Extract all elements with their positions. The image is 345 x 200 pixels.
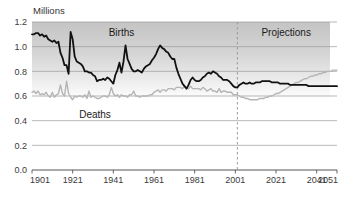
x-tick-label: 1901 bbox=[30, 175, 50, 185]
deaths-annotation-label: Deaths bbox=[79, 109, 111, 120]
units-label: Millions bbox=[33, 5, 65, 16]
x-tick-label: 1981 bbox=[185, 175, 205, 185]
x-tick-label: 1941 bbox=[103, 175, 123, 185]
projections-annotation-label: Projections bbox=[261, 27, 310, 38]
x-tick-label: 1961 bbox=[144, 175, 164, 185]
births-deaths-line-chart: 0.00.20.40.60.81.01.2 190119211941196119… bbox=[0, 0, 345, 200]
y-tick-label: 0.4 bbox=[14, 116, 27, 126]
y-tick-label: 0.8 bbox=[14, 67, 27, 77]
x-tick-label: 2001 bbox=[225, 175, 245, 185]
x-tick-label: 2021 bbox=[266, 175, 286, 185]
y-tick-label: 1.0 bbox=[14, 42, 27, 52]
y-tick-label: 1.2 bbox=[14, 17, 27, 27]
x-tick-label: 2051 bbox=[318, 175, 338, 185]
y-tick-label: 0.0 bbox=[14, 165, 27, 175]
chart-canvas: 0.00.20.40.60.81.01.2 190119211941196119… bbox=[0, 0, 345, 200]
y-tick-label: 0.6 bbox=[14, 91, 27, 101]
y-tick-label: 0.2 bbox=[14, 141, 27, 151]
births-annotation-label: Births bbox=[109, 27, 135, 38]
x-tick-label: 1921 bbox=[63, 175, 83, 185]
